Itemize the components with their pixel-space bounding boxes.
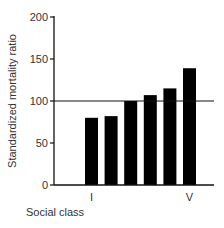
x-tick-label: V — [186, 191, 194, 203]
x-axis-label: Social class — [26, 206, 84, 218]
y-axis-label: Standardized mortality ratio — [6, 34, 18, 168]
bar-IIIN — [124, 101, 137, 185]
bar-V — [183, 68, 196, 185]
bar-I — [85, 118, 98, 185]
y-tick-label: 200 — [30, 11, 48, 23]
bars — [85, 68, 196, 185]
bar-IIIM — [144, 95, 157, 185]
x-axis: IV — [54, 185, 214, 203]
bar-IV — [163, 88, 176, 185]
y-axis: 050100150200 — [30, 11, 54, 191]
y-tick-label: 100 — [30, 95, 48, 107]
y-tick-label: 0 — [42, 179, 48, 191]
bar-II — [105, 116, 118, 185]
x-tick-label: I — [90, 191, 93, 203]
y-tick-label: 150 — [30, 53, 48, 65]
bar-chart: 050100150200 IV — [0, 0, 224, 228]
y-tick-label: 50 — [36, 137, 48, 149]
